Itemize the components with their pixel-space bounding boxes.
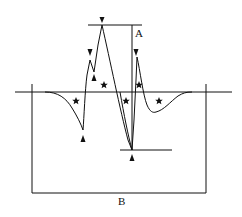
waveform-trace bbox=[45, 25, 192, 150]
star-icon bbox=[122, 97, 130, 104]
star-icon bbox=[100, 81, 108, 88]
label-a: A bbox=[135, 28, 143, 39]
arrowhead-up-icon bbox=[81, 135, 86, 142]
label-b: B bbox=[118, 196, 125, 207]
arrowhead-up-icon bbox=[130, 154, 135, 161]
waveform-diagram bbox=[0, 0, 242, 217]
arrowhead-up-icon bbox=[92, 74, 97, 81]
arrowhead-down-icon bbox=[134, 49, 139, 56]
arrowhead-down-icon bbox=[100, 17, 105, 23]
star-icon bbox=[155, 97, 163, 104]
star-icon bbox=[72, 97, 80, 104]
arrowhead-down-icon bbox=[88, 49, 93, 56]
